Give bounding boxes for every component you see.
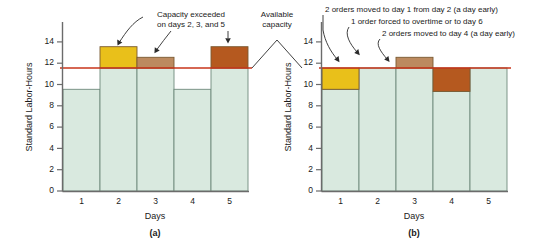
y-ticks-a: [57, 42, 63, 191]
bar-b-day2-base: [359, 68, 396, 191]
bar-b-day3-over: [396, 57, 433, 68]
y-tick-label-a-10: 10: [45, 79, 55, 89]
bar-b-day1-over: [322, 68, 359, 89]
bar-b-day5-base: [470, 68, 507, 191]
y-tick-label-b-0: 0: [308, 185, 313, 195]
available-capacity-label-line1: Available: [261, 10, 294, 19]
x-axis-title-a: Days: [145, 211, 166, 221]
panel-a-caption: (a): [150, 228, 161, 238]
annotation-b-line1: 2 orders moved to day 1 from day 2 (a da…: [325, 5, 498, 14]
y-axis-title-b: Standard Labor-Hours: [283, 62, 293, 152]
panel-b-bars: [322, 57, 507, 191]
annotation-a-line2: on days 2, 3, and 5: [157, 20, 226, 29]
bar-a-day1-base: [63, 89, 100, 191]
bar-a-day4-base: [174, 89, 211, 191]
panel-b: 0 2 4 6 8 10 12 14 1 2 3 4 5 Days Standa…: [283, 5, 515, 238]
y-tick-label-a-14: 14: [45, 36, 55, 46]
bar-a-day2-over: [100, 47, 137, 68]
bar-b-day4-over: [433, 68, 470, 91]
x-tick-label-b-1: 1: [338, 196, 343, 206]
bar-b-day1-base: [322, 89, 359, 191]
bar-b-day4-base: [433, 91, 470, 191]
x-tick-label-a-2: 2: [116, 196, 121, 206]
y-tick-label-b-10: 10: [304, 79, 314, 89]
x-tick-label-b-4: 4: [449, 196, 454, 206]
x-tick-label-b-2: 2: [375, 196, 380, 206]
available-capacity-label-line2: capacity: [262, 20, 291, 29]
panel-b-caption: (b): [408, 228, 420, 238]
x-axis-title-b: Days: [404, 211, 425, 221]
bar-a-day5-over: [211, 47, 248, 68]
x-tick-label-b-3: 3: [412, 196, 417, 206]
y-tick-label-b-8: 8: [308, 100, 313, 110]
y-tick-label-a-2: 2: [49, 164, 54, 174]
y-tick-label-a-0: 0: [49, 185, 54, 195]
bar-a-day2-base: [100, 68, 137, 191]
available-capacity-pointer: [252, 40, 302, 68]
y-tick-label-a-8: 8: [49, 100, 54, 110]
annotation-a-line1: Capacity exceeded: [157, 10, 225, 19]
x-tick-label-a-4: 4: [190, 196, 195, 206]
y-tick-label-b-2: 2: [308, 164, 313, 174]
x-tick-label-b-5: 5: [486, 196, 491, 206]
bar-b-day3-base: [396, 68, 433, 191]
figure-capacity-loading: 0 2 4 6 8 10 12 14 1 2 3 4 5 Days Standa…: [0, 0, 550, 250]
annotation-b-line2: 1 order forced to overtime or to day 6: [351, 17, 483, 26]
y-tick-label-b-14: 14: [304, 36, 314, 46]
y-tick-label-b-12: 12: [304, 57, 314, 67]
y-axis-title-a: Standard Labor-Hours: [24, 62, 34, 152]
bar-a-day5-base: [211, 68, 248, 191]
x-tick-label-a-5: 5: [227, 196, 232, 206]
y-ticks-b: [316, 42, 322, 191]
x-tick-label-a-3: 3: [153, 196, 158, 206]
y-tick-label-a-12: 12: [45, 57, 55, 67]
x-tick-label-a-1: 1: [79, 196, 84, 206]
panel-a: 0 2 4 6 8 10 12 14 1 2 3 4 5 Days Standa…: [24, 10, 252, 238]
bar-a-day3-over: [137, 57, 174, 68]
y-tick-label-a-6: 6: [49, 121, 54, 131]
y-tick-label-b-4: 4: [308, 143, 313, 153]
y-tick-label-b-6: 6: [308, 121, 313, 131]
bar-a-day3-base: [137, 68, 174, 191]
y-tick-label-a-4: 4: [49, 143, 54, 153]
available-capacity-callout: Available capacity: [252, 10, 302, 68]
annotation-b-line3: 2 orders moved to day 4 (a day early): [382, 29, 515, 38]
